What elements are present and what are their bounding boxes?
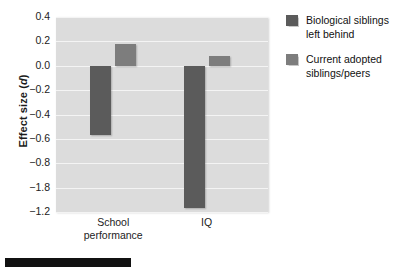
y-tick-label: −0.8: [2, 156, 50, 168]
y-tick-label: 0.2: [2, 34, 50, 46]
y-tick-label: −1.2: [2, 205, 50, 217]
gridline: [56, 139, 268, 140]
y-tick-label: −0.6: [2, 132, 50, 144]
legend-swatch: [286, 15, 298, 26]
bar: [115, 44, 136, 66]
legend-entry: Current adoptedsiblings/peers: [286, 53, 404, 80]
legend-label: Current adoptedsiblings/peers: [306, 53, 404, 80]
y-tick-label: 0.4: [2, 10, 50, 22]
gridline: [56, 212, 268, 213]
y-tick-label: −1.8: [2, 181, 50, 193]
bar: [184, 66, 205, 209]
chart-legend: Biological siblingsleft behindCurrent ad…: [286, 14, 404, 92]
gridline: [56, 41, 268, 42]
gridline: [56, 163, 268, 164]
x-category-label-line: IQ: [157, 216, 257, 229]
x-axis-category-labels: SchoolperformanceIQ: [56, 216, 268, 258]
x-category-label: IQ: [157, 216, 257, 229]
gridline: [56, 188, 268, 189]
x-category-label: Schoolperformance: [63, 216, 163, 242]
bar: [209, 56, 230, 66]
y-axis-tick-labels: 0.40.20.0−0.2−0.4−0.6−0.8−1.8−1.2: [0, 17, 52, 212]
gridline: [56, 115, 268, 116]
legend-label-line: siblings/peers: [306, 67, 404, 81]
footer-black-bar: [5, 258, 131, 267]
y-tick-label: 0.0: [2, 59, 50, 71]
gridline: [56, 90, 268, 91]
gridline: [56, 66, 268, 67]
legend-label-line: Biological siblings: [306, 14, 404, 28]
legend-entry: Biological siblingsleft behind: [286, 14, 404, 41]
plot-area: [56, 17, 268, 212]
bar: [90, 66, 111, 135]
legend-label-line: left behind: [306, 28, 404, 42]
y-tick-label: −0.4: [2, 108, 50, 120]
x-category-label-line: School: [63, 216, 163, 229]
gridline: [56, 17, 268, 18]
y-tick-label: −0.2: [2, 83, 50, 95]
x-category-label-line: performance: [63, 229, 163, 242]
legend-label: Biological siblingsleft behind: [306, 14, 404, 41]
legend-label-line: Current adopted: [306, 53, 404, 67]
legend-swatch: [286, 54, 298, 65]
